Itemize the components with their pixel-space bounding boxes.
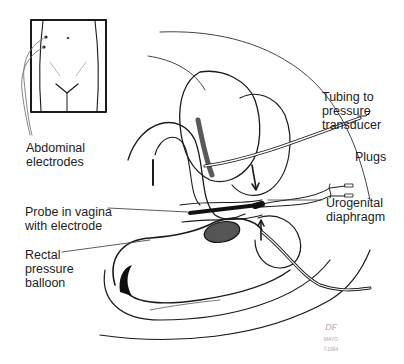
signature-line2: ©1994 [318, 347, 344, 352]
leader-rectal-balloon [62, 240, 150, 252]
rectal-balloon [202, 218, 241, 245]
plug [345, 184, 353, 187]
vaginal-probe [190, 205, 258, 213]
navel [67, 37, 70, 40]
label-rectal-balloon: Rectal pressure balloon [25, 248, 74, 290]
probe-electrode [255, 204, 262, 206]
signature-initials: DF [318, 323, 344, 332]
torso-left-outline [40, 21, 43, 111]
urogenital-diaphragm [255, 216, 301, 268]
anal-canal-shading [120, 265, 133, 296]
label-probe: Probe in vagina with electrode [25, 205, 112, 233]
pelvis-illustration [0, 0, 404, 364]
label-abdominal-electrodes: Abdominal electrodes [26, 141, 85, 169]
rectum-lower [125, 270, 290, 303]
label-urogenital-diaphragm: Urogenital diaphragm [326, 196, 385, 224]
rectal-catheter [262, 232, 370, 290]
leader-probe [108, 208, 188, 212]
label-plugs: Plugs [355, 150, 386, 164]
signature-line1: MAYO [318, 337, 344, 342]
label-tubing: Tubing to pressure transducer [322, 90, 381, 132]
inset-frame [31, 20, 106, 112]
abdomen-inset [22, 20, 106, 135]
inguinal-lines [50, 62, 86, 76]
groin-v [56, 84, 78, 93]
bowel-inner [155, 137, 200, 205]
artist-signature: DF MAYO ©1994 [318, 318, 344, 357]
peritoneum-line [148, 56, 205, 90]
torso-right-outline [95, 21, 98, 111]
diagram: Abdominal electrodes Tubing to pressure … [0, 0, 404, 364]
perineum-curve [104, 260, 330, 320]
